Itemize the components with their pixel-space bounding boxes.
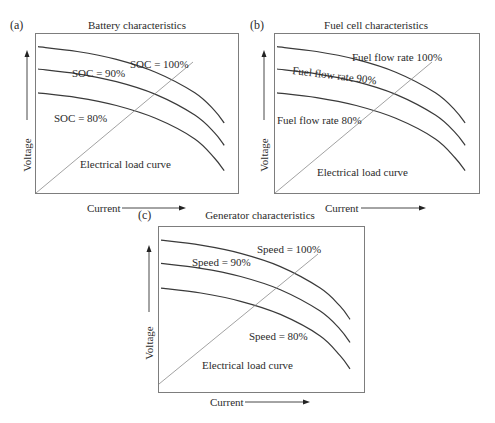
curve-label-high: Fuel flow rate 100% (352, 51, 442, 63)
panel-title: Generator characteristics (205, 209, 315, 221)
panel-tag: (c) (138, 208, 151, 222)
x-axis-label-group: Current (210, 396, 310, 408)
arrow-up-icon (25, 50, 30, 57)
arrow-up-icon (147, 245, 152, 252)
load-curve-label: Electrical load curve (80, 158, 171, 170)
figure-canvas: (a) Battery characteristics Voltage Curr… (0, 0, 495, 423)
curve-label-mid: SOC = 90% (72, 67, 125, 79)
curve-label-low: Speed = 80% (249, 330, 308, 342)
load-curve-label: Electrical load curve (317, 166, 408, 178)
arrow-right-icon (179, 206, 186, 211)
curve-label-mid: Fuel flow rate 90% (292, 64, 377, 86)
curve-label-low: Fuel flow rate 80% (277, 114, 362, 126)
panel-title: Fuel cell characteristics (324, 19, 428, 31)
y-axis-label-group: Voltage (258, 50, 270, 172)
panel-generator: (c) Generator characteristics Voltage Cu… (138, 208, 365, 408)
arrow-right-icon (419, 206, 426, 211)
curve-label-high: SOC = 100% (130, 58, 189, 70)
x-axis-label-group: Current (325, 202, 426, 214)
curve-label-high: Speed = 100% (257, 243, 321, 255)
load-curve-label: Electrical load curve (202, 359, 293, 371)
curve-label-low: SOC = 80% (54, 112, 107, 124)
curve-mid (38, 69, 224, 145)
curve-low (161, 288, 350, 369)
curve-low (277, 93, 465, 171)
y-axis-label-group: Voltage (143, 245, 155, 360)
x-axis-label-group: Current (87, 202, 186, 214)
panel-title: Battery characteristics (88, 19, 186, 31)
panel-tag: (b) (250, 18, 264, 32)
y-axis-label: Voltage (143, 326, 155, 360)
panel-tag: (a) (10, 18, 23, 32)
x-axis-label: Current (325, 202, 359, 214)
curve-high (161, 240, 350, 319)
x-axis-label: Current (87, 202, 121, 214)
y-axis-label: Voltage (258, 138, 270, 172)
arrow-up-icon (262, 50, 267, 57)
arrow-right-icon (303, 400, 310, 405)
panel-fuel-cell: (b) Fuel cell characteristics Voltage Cu… (250, 18, 480, 214)
x-axis-label: Current (210, 396, 244, 408)
panel-battery: (a) Battery characteristics Voltage Curr… (10, 18, 239, 214)
curve-label-mid: Speed = 90% (192, 256, 251, 268)
y-axis-label: Voltage (21, 138, 33, 172)
y-axis-label-group: Voltage (21, 50, 33, 172)
